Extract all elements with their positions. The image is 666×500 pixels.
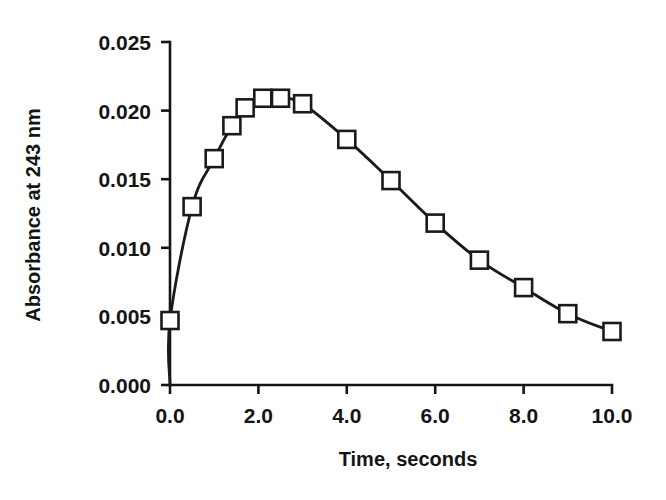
data-point-marker [604, 323, 621, 340]
data-point-marker [254, 90, 271, 107]
data-point-marker [383, 172, 400, 189]
absorbance-vs-time-chart: 0.0000.0050.0100.0150.0200.025 0.02.04.0… [0, 0, 666, 500]
y-tick-label: 0.010 [98, 237, 151, 260]
y-tick-label: 0.015 [98, 168, 151, 191]
y-tick-label: 0.025 [98, 31, 151, 54]
x-tick-label: 10.0 [592, 404, 633, 427]
data-point-marker [559, 305, 576, 322]
data-point-marker [237, 99, 254, 116]
data-point-marker [184, 198, 201, 215]
x-tick-label: 6.0 [421, 404, 450, 427]
y-axis-title: Absorbance at 243 nm [22, 108, 44, 321]
y-tick-label: 0.020 [98, 100, 151, 123]
y-tick-label: 0.000 [98, 374, 151, 397]
data-series-markers [162, 90, 621, 340]
y-tick-label: 0.005 [98, 305, 151, 328]
data-series-line [168, 97, 612, 385]
data-point-marker [471, 252, 488, 269]
x-axis-tick-marks [170, 385, 612, 394]
data-point-marker [515, 279, 532, 296]
data-point-marker [294, 95, 311, 112]
x-tick-label: 0.0 [155, 404, 184, 427]
x-tick-label: 8.0 [509, 404, 538, 427]
data-point-marker [206, 150, 223, 167]
data-point-marker [427, 215, 444, 232]
data-point-marker [223, 117, 240, 134]
data-point-marker [272, 90, 289, 107]
data-point-marker [162, 312, 179, 329]
y-axis-tick-labels: 0.0000.0050.0100.0150.0200.025 [98, 31, 151, 397]
chart-page: 0.0000.0050.0100.0150.0200.025 0.02.04.0… [0, 0, 666, 500]
x-axis-tick-labels: 0.02.04.06.08.010.0 [155, 404, 632, 427]
x-tick-label: 2.0 [244, 404, 273, 427]
x-axis-title: Time, seconds [339, 448, 478, 470]
data-point-marker [338, 131, 355, 148]
x-tick-label: 4.0 [332, 404, 361, 427]
